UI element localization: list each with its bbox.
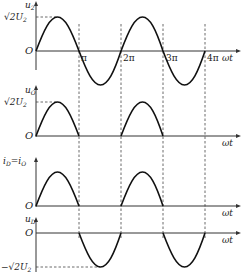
rectifier-waveform-diagram: u2 √2U2 O π 2π 3π 4π ωt uO √2U2 O ωt iD=… bbox=[0, 0, 244, 277]
panel-uO: uO √2U2 O ωt bbox=[4, 85, 241, 148]
wt-label: ωt bbox=[222, 138, 233, 148]
tick-3pi: 3π bbox=[166, 53, 178, 63]
iD-halfwave-curve bbox=[36, 172, 163, 206]
uD-negative-halfwave-curve bbox=[79, 233, 205, 267]
uD-trough-label: −√2U2 bbox=[1, 262, 32, 273]
u2-peak-label: √2U2 bbox=[4, 12, 27, 23]
uD-axis-label: uD bbox=[25, 214, 36, 225]
wt-label: ωt bbox=[222, 235, 233, 245]
x-axis-arrow-icon bbox=[236, 231, 241, 235]
origin-label: O bbox=[25, 45, 33, 56]
tick-4pi: 4π bbox=[207, 53, 219, 63]
u2-axis-label: u2 bbox=[25, 0, 35, 11]
tick-2pi: 2π bbox=[123, 53, 135, 63]
y-axis-arrow-icon bbox=[34, 157, 38, 162]
panel-u2: u2 √2U2 O π 2π 3π 4π ωt bbox=[4, 0, 241, 85]
x-axis-arrow-icon bbox=[236, 134, 241, 138]
x-axis-arrow-icon bbox=[236, 204, 241, 208]
wt-label: ωt bbox=[222, 208, 233, 218]
x-axis-arrow-icon bbox=[236, 49, 241, 53]
origin-label: O bbox=[25, 130, 33, 141]
tick-pi: π bbox=[81, 53, 87, 63]
iD-axis-label: iD=iO bbox=[3, 156, 26, 167]
uO-halfwave-curve bbox=[36, 102, 163, 136]
uO-axis-label: uO bbox=[25, 85, 36, 96]
origin-label: O bbox=[25, 200, 33, 211]
uO-peak-label: √2U2 bbox=[4, 97, 27, 108]
wt-label: ωt bbox=[222, 53, 233, 63]
origin-label: O bbox=[25, 227, 33, 238]
